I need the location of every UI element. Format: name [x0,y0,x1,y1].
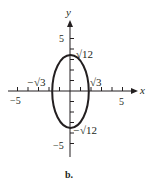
y-axis-label: y [65,6,71,18]
ellipse-chart: x y −5 5 5 −5 √12 − √12 √3 − √3 b. [0,0,155,187]
figure-caption: b. [65,169,74,180]
x-tick-label-neg5: −5 [10,95,21,106]
annotation-neg-sqrt12-bottom: − √12 [73,124,97,136]
x-axis-label: x [139,84,145,96]
y-axis-arrow-icon [67,20,73,27]
annotation-sqrt3-left: √3 [34,76,46,88]
x-axis-arrow-icon [131,88,138,94]
y-tick-label-neg5: −5 [53,140,64,151]
x-tick-label-pos5: 5 [119,96,124,107]
annotation-sqrt3-right: √3 [90,76,102,88]
annotation-neg-sqrt3-left: − √3 [27,76,46,88]
annotation-sqrt12-bottom: √12 [80,124,97,136]
annotation-minus: − [27,76,33,88]
annotation-minus: − [73,124,79,136]
annotation-sqrt12-top: √12 [76,48,93,60]
y-tick-label-pos5: 5 [59,33,64,44]
